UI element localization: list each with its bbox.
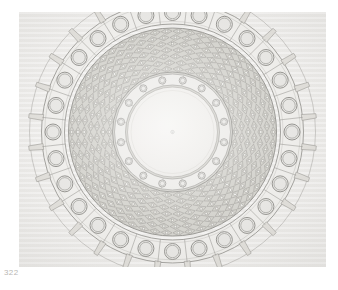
coffer-inner-square: [261, 159, 264, 162]
outer-column: [90, 217, 106, 233]
coffer-inner-square: [200, 34, 203, 37]
buttress-spur: [94, 240, 106, 255]
coffer-inner-square: [189, 211, 192, 214]
coffer-inner-square: [246, 142, 249, 145]
coffer-inner-square: [142, 207, 145, 210]
coffer-inner-square: [94, 159, 97, 162]
coffer-inner-square: [180, 200, 183, 203]
coffer-inner-square: [197, 222, 200, 225]
coffer-inner-square: [177, 213, 179, 215]
coffer-inner-square: [101, 102, 104, 105]
rotunda-plan-drawing: [19, 12, 326, 267]
coffer-inner-square: [269, 107, 272, 110]
coffer-inner-square: [266, 125, 268, 127]
coffer-inner-square: [91, 113, 94, 116]
column-outline-circle: [191, 241, 207, 257]
coffer-inner-square: [261, 102, 264, 105]
outer-column: [216, 16, 232, 32]
coffer-inner-square: [91, 148, 94, 151]
column-outline-circle: [165, 244, 181, 260]
coffer-inner-square: [272, 131, 274, 133]
inner-column: [213, 99, 220, 106]
inner-column: [220, 118, 227, 125]
coffer-inner-square: [174, 55, 176, 57]
coffer-inner-square: [154, 230, 157, 233]
coffer-inner-square: [154, 70, 157, 73]
coffer-inner-square: [266, 165, 269, 168]
column-outline-circle: [239, 217, 255, 233]
coffer-inner-square: [151, 223, 154, 226]
coffer-inner-square: [151, 38, 154, 41]
coffer-inner-square: [183, 218, 186, 221]
coffer-inner-square: [253, 137, 255, 139]
coffer-inner-square: [247, 131, 249, 133]
buttress-spur: [281, 199, 296, 211]
coffer-inner-square: [233, 119, 236, 122]
coffer-inner-square: [177, 68, 180, 71]
buttress-spur: [301, 114, 316, 121]
outer-column: [45, 124, 61, 140]
coffer-inner-square: [86, 108, 89, 111]
coffer-inner-square: [156, 63, 159, 66]
outer-column: [138, 12, 154, 24]
coffer-inner-square: [101, 159, 104, 162]
coffer-inner-square: [109, 119, 112, 122]
inner-column: [198, 85, 205, 92]
column-outline-circle: [258, 49, 274, 65]
outer-column: [71, 49, 87, 65]
coffer-inner-square: [140, 41, 143, 44]
coffer-inner-square: [154, 31, 157, 34]
coffer-inner-square: [240, 137, 243, 140]
coffer-inner-square: [174, 225, 176, 227]
buttress-spur: [49, 53, 64, 65]
coffer-inner-square: [160, 218, 163, 221]
inner-column: [198, 172, 205, 179]
buttress-spur: [213, 254, 223, 267]
coffer-inner-square: [163, 206, 166, 209]
coffer-inner-square: [160, 43, 163, 46]
coffer-inner-square: [191, 197, 194, 200]
inner-column: [117, 118, 124, 125]
outer-column: [281, 151, 297, 167]
column-outline-circle: [57, 176, 73, 192]
outer-column: [57, 72, 73, 88]
column-outline-circle: [57, 72, 73, 88]
coffer-inner-square: [188, 191, 191, 194]
column-outline-circle: [284, 124, 300, 140]
outer-column: [113, 16, 129, 32]
buttress-spur: [123, 254, 133, 267]
coffer-inner-square: [200, 207, 203, 210]
coffer-inner-square: [180, 62, 183, 65]
coffer-inner-square: [70, 131, 72, 133]
coffer-inner-square: [248, 159, 251, 162]
coffer-inner-square: [89, 137, 91, 139]
coffer-inner-square: [154, 191, 157, 194]
coffer-inner-square: [256, 108, 259, 111]
column-outline-circle: [71, 199, 87, 215]
coffer-inner-square: [230, 108, 233, 111]
coffer-inner-square: [102, 131, 104, 133]
coffer-inner-square: [71, 119, 74, 122]
buttress-spur: [35, 82, 50, 92]
coffer-inner-square: [148, 216, 151, 219]
buttress-spur: [301, 144, 316, 151]
coffer-inner-square: [259, 142, 262, 145]
coffer-inner-square: [112, 108, 115, 111]
coffer-inner-square: [251, 113, 254, 116]
coffer-inner-square: [251, 148, 254, 151]
coffer-inner-square: [189, 50, 192, 53]
inner-column: [179, 180, 186, 187]
column-outline-circle: [239, 31, 255, 47]
coffer-inner-square: [194, 216, 197, 219]
coffer-inner-square: [233, 142, 236, 145]
coffer-inner-square: [200, 54, 203, 57]
coffer-inner-square: [174, 36, 176, 38]
column-outline-circle: [216, 16, 232, 32]
coffer-inner-square: [243, 153, 246, 156]
column-outline-circle: [90, 31, 106, 47]
coffer-inner-square: [79, 108, 82, 111]
coffer-inner-square: [191, 64, 194, 67]
coffer-inner-square: [154, 50, 157, 53]
page-root: 322: [0, 0, 338, 290]
coffer-inner-square: [112, 153, 115, 156]
